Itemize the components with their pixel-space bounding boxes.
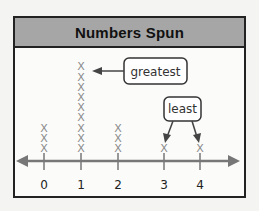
tick-label: 1 (77, 178, 85, 192)
tick-label: 3 (160, 178, 168, 192)
x-mark: X (114, 122, 122, 135)
axis-ticks: 01234 (40, 153, 204, 192)
least-callout: least (163, 97, 201, 143)
least-label: least (168, 102, 197, 116)
arrow-left-icon (92, 67, 102, 75)
tick-label: 0 (40, 178, 48, 192)
x-mark: X (196, 142, 204, 155)
right-arrow-icon (228, 155, 240, 167)
left-arrow-icon (16, 155, 28, 167)
number-line (16, 155, 240, 167)
line-plot: 01234 XXXXXXXXXXXXXXXXX greatest least (0, 0, 259, 211)
x-mark: X (160, 142, 168, 155)
x-mark: X (77, 60, 85, 73)
x-mark: X (40, 122, 48, 135)
greatest-label: greatest (130, 65, 180, 79)
tick-label: 4 (196, 178, 204, 192)
tick-label: 2 (114, 178, 122, 192)
greatest-callout: greatest (92, 58, 187, 84)
